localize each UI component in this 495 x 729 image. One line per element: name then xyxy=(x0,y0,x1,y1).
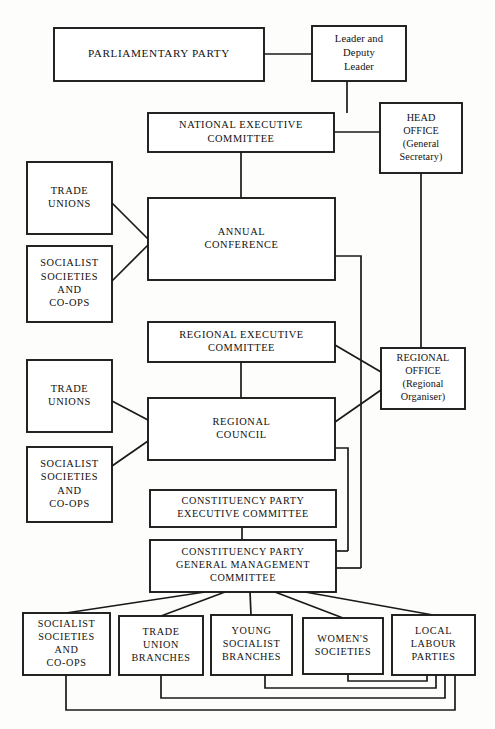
connector-trade-unions-to-annual-conference xyxy=(112,203,148,239)
node-socialist-societies-local[interactable]: SOCIALISTSOCIETIESANDCO-OPS xyxy=(23,613,110,675)
node-label-regional-council: REGIONAL xyxy=(213,416,271,427)
node-label-local-labour-parties: LABOUR xyxy=(411,638,456,649)
node-label-young-socialist-branches: BRANCHES xyxy=(222,651,281,662)
node-label-womens-societies: SOCIETIES xyxy=(315,646,371,657)
node-regional-council[interactable]: REGIONALCOUNCIL xyxy=(148,398,335,460)
connector-rec-to-regional-office xyxy=(335,345,381,372)
node-label-socialist-societies-regional: SOCIALIST xyxy=(40,458,99,469)
node-label-socialist-societies-local: AND xyxy=(55,644,79,655)
node-label-constituency-party-executive-committee: CONSTITUENCY PARTY xyxy=(182,495,305,506)
node-constituency-party-executive-committee[interactable]: CONSTITUENCY PARTYEXECUTIVE COMMITTEE xyxy=(150,490,336,527)
node-label-trade-unions-regional: TRADE xyxy=(51,383,89,394)
node-label-constituency-party-general-management-committee: CONSTITUENCY PARTY xyxy=(182,546,305,557)
org-chart-diagram: PARLIAMENTARY PARTYLeader andDeputyLeade… xyxy=(0,0,495,729)
node-label-trade-union-branches: TRADE xyxy=(143,626,180,637)
node-trade-unions-national[interactable]: TRADEUNIONS xyxy=(27,162,112,234)
node-label-trade-unions-regional: UNIONS xyxy=(48,396,91,407)
node-label-socialist-societies-local: SOCIALIST xyxy=(38,618,96,629)
node-local-labour-parties[interactable]: LOCALLABOURPARTIES xyxy=(392,615,475,675)
node-national-executive-committee[interactable]: NATIONAL EXECUTIVECOMMITTEE xyxy=(148,113,334,152)
node-label-socialist-societies-local: SOCIETIES xyxy=(38,631,94,642)
node-regional-executive-committee[interactable]: REGIONAL EXECUTIVECOMMITTEE xyxy=(148,322,335,362)
node-label-regional-council: COUNCIL xyxy=(216,429,266,440)
node-socialist-societies-national[interactable]: SOCIALISTSOCIETIESANDCO-OPS xyxy=(27,246,112,322)
node-label-young-socialist-branches: SOCIALIST xyxy=(223,638,281,649)
node-label-constituency-party-executive-committee: EXECUTIVE COMMITTEE xyxy=(177,508,309,519)
node-label-socialist-societies-national: SOCIETIES xyxy=(41,271,98,282)
node-label-trade-union-branches: UNION xyxy=(143,639,179,650)
node-label-annual-conference: CONFERENCE xyxy=(204,239,278,250)
connector-regional-council-to-spine2 xyxy=(335,448,348,551)
node-label-national-executive-committee: COMMITTEE xyxy=(207,133,274,144)
node-label-socialist-societies-regional: AND xyxy=(57,485,81,496)
node-label-womens-societies: WOMEN'S xyxy=(317,633,368,644)
connector-socialist-societies-reg-to-council xyxy=(112,441,148,466)
node-label-leader-deputy-leader: Leader xyxy=(344,61,374,72)
node-label-head-office: (General xyxy=(403,138,440,150)
node-label-constituency-party-general-management-committee: COMMITTEE xyxy=(210,572,276,583)
node-label-regional-office: Organiser) xyxy=(401,391,445,403)
node-regional-office[interactable]: REGIONALOFFICE(RegionalOrganiser) xyxy=(381,348,465,409)
node-label-trade-unions-national: TRADE xyxy=(51,185,89,196)
node-leader-deputy-leader[interactable]: Leader andDeputyLeader xyxy=(312,26,406,81)
node-label-leader-deputy-leader: Leader and xyxy=(335,33,384,44)
node-trade-union-branches[interactable]: TRADEUNIONBRANCHES xyxy=(119,616,203,675)
node-label-socialist-societies-national: SOCIALIST xyxy=(40,257,99,268)
node-layer: PARLIAMENTARY PARTYLeader andDeputyLeade… xyxy=(23,26,475,675)
connector-socialist-societies-to-annual-conference xyxy=(112,245,148,281)
node-label-head-office: OFFICE xyxy=(403,125,439,136)
node-label-trade-unions-national: UNIONS xyxy=(48,198,91,209)
connector-trade-union-branches-return xyxy=(161,675,445,698)
node-label-head-office: HEAD xyxy=(407,112,436,123)
connector-regional-council-to-regional-office xyxy=(335,390,381,422)
node-young-socialist-branches[interactable]: YOUNGSOCIALISTBRANCHES xyxy=(211,615,292,675)
node-annual-conference[interactable]: ANNUALCONFERENCE xyxy=(148,198,335,280)
node-label-young-socialist-branches: YOUNG xyxy=(232,625,272,636)
node-socialist-societies-regional[interactable]: SOCIALISTSOCIETIESANDCO-OPS xyxy=(27,447,112,522)
node-label-regional-executive-committee: REGIONAL EXECUTIVE xyxy=(179,329,303,340)
node-label-socialist-societies-local: CO-OPS xyxy=(47,657,87,668)
node-label-socialist-societies-national: AND xyxy=(57,284,81,295)
node-label-leader-deputy-leader: Deputy xyxy=(343,47,375,58)
node-label-trade-union-branches: BRANCHES xyxy=(131,652,190,663)
node-label-head-office: Secretary) xyxy=(400,151,443,163)
node-label-parliamentary-party: PARLIAMENTARY PARTY xyxy=(88,47,230,59)
node-label-regional-office: (Regional xyxy=(402,378,443,390)
node-label-regional-office: REGIONAL xyxy=(397,352,450,363)
node-constituency-party-general-management-committee[interactable]: CONSTITUENCY PARTYGENERAL MANAGEMENTCOMM… xyxy=(150,540,336,592)
connector-gmc-to-trade-union-branches xyxy=(161,592,225,616)
node-head-office[interactable]: HEADOFFICE(GeneralSecretary) xyxy=(380,103,462,173)
node-womens-societies[interactable]: WOMEN'SSOCIETIES xyxy=(303,618,383,674)
node-label-regional-executive-committee: COMMITTEE xyxy=(208,342,275,353)
node-label-annual-conference: ANNUAL xyxy=(218,226,265,237)
org-chart-canvas: PARLIAMENTARY PARTYLeader andDeputyLeade… xyxy=(0,0,495,729)
node-label-national-executive-committee: NATIONAL EXECUTIVE xyxy=(179,119,303,130)
node-label-local-labour-parties: PARTIES xyxy=(412,651,456,662)
node-label-socialist-societies-regional: SOCIETIES xyxy=(41,471,98,482)
node-label-socialist-societies-national: CO-OPS xyxy=(49,297,90,308)
node-label-socialist-societies-regional: CO-OPS xyxy=(49,498,90,509)
node-label-constituency-party-general-management-committee: GENERAL MANAGEMENT xyxy=(176,559,310,570)
connector-gmc-to-socialist-local xyxy=(66,592,205,613)
connector-gmc-to-young-socialist xyxy=(250,592,251,615)
node-parliamentary-party[interactable]: PARLIAMENTARY PARTY xyxy=(54,28,264,81)
node-trade-unions-regional[interactable]: TRADEUNIONS xyxy=(27,360,112,432)
node-label-regional-office: OFFICE xyxy=(405,365,441,376)
connector-trade-unions-reg-to-council xyxy=(112,401,148,420)
node-label-local-labour-parties: LOCAL xyxy=(415,625,452,636)
